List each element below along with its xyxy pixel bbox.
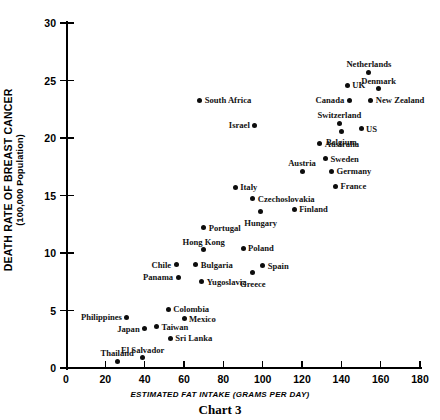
- data-point-label: Finland: [299, 205, 328, 214]
- x-tick-label: 40: [125, 374, 165, 385]
- data-point[interactable]: [250, 196, 255, 201]
- data-point[interactable]: [317, 141, 322, 146]
- y-axis-title-sub: (100,000 Population): [15, 30, 26, 330]
- y-tick-label: 15: [22, 191, 56, 202]
- data-point-label: Japan: [117, 325, 139, 334]
- data-point-label: Israel: [229, 121, 250, 130]
- x-axis-title: ESTIMATED FAT INTAKE (GRAMS PER DAY): [0, 390, 440, 399]
- data-point-label: Poland: [248, 244, 274, 253]
- data-point[interactable]: [168, 336, 173, 341]
- data-point[interactable]: [347, 98, 352, 103]
- data-point[interactable]: [174, 262, 179, 267]
- data-point[interactable]: [154, 324, 159, 329]
- data-point-label: Bulgaria: [201, 261, 233, 270]
- data-point[interactable]: [124, 315, 129, 320]
- data-point-label: Philippines: [81, 313, 122, 322]
- data-point-label: Canada: [316, 96, 345, 105]
- y-tick-label: 20: [22, 133, 56, 144]
- data-point[interactable]: [333, 184, 338, 189]
- data-point[interactable]: [260, 263, 265, 268]
- data-point-label: Yugoslavia: [207, 278, 247, 287]
- data-point[interactable]: [376, 86, 381, 91]
- data-point-label: Mexico: [189, 315, 216, 324]
- x-tick-label: 20: [85, 374, 125, 385]
- data-point[interactable]: [115, 359, 120, 364]
- x-tick-label: 80: [203, 374, 243, 385]
- data-point-label: France: [340, 182, 366, 191]
- data-point[interactable]: [201, 247, 206, 252]
- y-tick-label: 25: [22, 76, 56, 87]
- data-point-label: Sri Lanka: [175, 334, 212, 343]
- data-point[interactable]: [182, 316, 187, 321]
- x-tick-label: 120: [282, 374, 322, 385]
- data-point[interactable]: [345, 83, 350, 88]
- data-point-label: Sweden: [331, 155, 359, 164]
- data-point[interactable]: [329, 169, 334, 174]
- data-point[interactable]: [176, 275, 181, 280]
- data-point-label: Panama: [143, 273, 173, 282]
- data-point[interactable]: [140, 355, 145, 360]
- data-point[interactable]: [258, 209, 263, 214]
- data-point[interactable]: [323, 156, 328, 161]
- data-point-label: UK: [352, 81, 365, 90]
- y-tick-label: 10: [22, 248, 56, 259]
- data-point[interactable]: [233, 185, 238, 190]
- x-tick-label: 60: [164, 374, 204, 385]
- data-point-label: Thailand: [100, 349, 133, 358]
- y-tick-label: 0: [22, 363, 56, 374]
- x-tick-label: 0: [46, 374, 86, 385]
- data-point[interactable]: [197, 98, 202, 103]
- chart-caption: Chart 3: [0, 402, 440, 418]
- data-point[interactable]: [193, 262, 198, 267]
- data-point[interactable]: [252, 123, 257, 128]
- data-point[interactable]: [250, 270, 255, 275]
- data-point-label: Czechoslovakia: [258, 195, 315, 204]
- data-point[interactable]: [292, 207, 297, 212]
- data-point[interactable]: [201, 225, 206, 230]
- data-point-label: Taiwan: [161, 323, 188, 332]
- data-point-label: Hungary: [244, 219, 277, 228]
- x-tick-label: 140: [321, 374, 361, 385]
- y-axis-title-text: DEATH RATE OF BREAST CANCER: [2, 88, 14, 271]
- data-point-label: Chile: [152, 261, 172, 270]
- data-point[interactable]: [366, 70, 371, 75]
- data-point-label: Switzerland: [317, 111, 361, 120]
- data-point-label: Germany: [337, 167, 372, 176]
- data-point[interactable]: [241, 246, 246, 251]
- y-tick-label: 5: [22, 306, 56, 317]
- data-point-label: Hong Kong: [183, 238, 225, 247]
- data-point[interactable]: [300, 169, 305, 174]
- data-point[interactable]: [166, 307, 171, 312]
- y-tick-label: 30: [22, 18, 56, 29]
- data-point[interactable]: [368, 98, 373, 103]
- data-point-label: Denmark: [361, 77, 396, 86]
- data-point[interactable]: [199, 279, 204, 284]
- data-point[interactable]: [359, 126, 364, 131]
- data-point-label: Netherlands: [346, 60, 391, 69]
- chart-container: 051015202530 020406080100120140160180 DE…: [0, 0, 440, 420]
- x-tick-label: 160: [361, 374, 401, 385]
- data-point-label: Italy: [240, 183, 257, 192]
- data-point[interactable]: [142, 326, 147, 331]
- x-tick-label: 100: [243, 374, 283, 385]
- data-point-label: Australia: [325, 140, 359, 149]
- x-tick-label: 180: [400, 374, 440, 385]
- scatter-points-layer: NetherlandsDenmarkUKNew ZealandCanadaSou…: [66, 23, 420, 368]
- data-point-label: Austria: [288, 159, 316, 168]
- data-point[interactable]: [339, 129, 344, 134]
- data-point-label: South Africa: [205, 96, 252, 105]
- data-point-label: New Zealand: [376, 96, 424, 105]
- data-point[interactable]: [337, 121, 342, 126]
- data-point-label: US: [366, 125, 377, 134]
- data-point-label: Portugal: [209, 224, 241, 233]
- data-point-label: Spain: [268, 262, 289, 271]
- y-axis-title: DEATH RATE OF BREAST CANCER (100,000 Pop…: [2, 30, 26, 330]
